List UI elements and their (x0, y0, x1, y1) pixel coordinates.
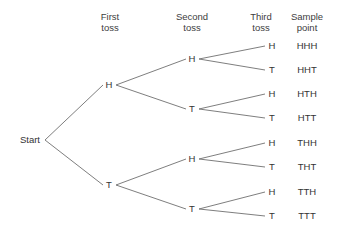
node-third-toss-6: T (269, 161, 275, 172)
branch-group-level2 (199, 46, 265, 216)
node-third-toss-1: H (269, 40, 276, 51)
node-third-toss-8: T (269, 210, 275, 221)
node-second-toss-h-lower: H (189, 153, 196, 164)
node-third-toss-4: T (269, 112, 275, 123)
node-third-toss-2: T (269, 64, 275, 75)
start-node-label: Start (20, 134, 40, 145)
node-third-toss-3: H (269, 88, 276, 99)
sample-point-tth: TTH (298, 186, 317, 197)
node-third-toss-7: H (269, 186, 276, 197)
branch-hh-to-hhh (199, 46, 265, 59)
column-header-third-toss-line1: Third (250, 11, 272, 22)
sample-point-thh: THH (297, 137, 317, 148)
branch-th-to-thh (199, 143, 265, 159)
branch-th-to-tht (199, 159, 265, 167)
branch-hh-to-hht (199, 59, 265, 70)
column-header-sample-point-line2: point (297, 22, 318, 33)
column-header-second-toss-line2: toss (183, 22, 201, 33)
node-first-toss-t: T (106, 179, 112, 190)
sample-point-hth: HTH (297, 88, 317, 99)
column-header-third-toss-line2: toss (252, 22, 270, 33)
node-second-toss-h-upper: H (189, 53, 196, 64)
sample-point-ttt: TTT (298, 210, 316, 221)
node-second-toss-t-lower: T (189, 203, 195, 214)
probability-tree-diagram: First toss Second toss Third toss Sample… (0, 0, 342, 233)
sample-point-hht: HHT (297, 64, 317, 75)
node-third-toss-5: H (269, 137, 276, 148)
column-header-sample-point-line1: Sample (291, 11, 323, 22)
sample-point-hhh: HHH (297, 40, 318, 51)
node-second-toss-t-upper: T (189, 103, 195, 114)
branch-ht-to-htt (199, 109, 265, 118)
branch-start-to-t (45, 140, 103, 185)
branch-t-to-th (116, 159, 186, 185)
branch-tt-to-ttt (199, 209, 265, 216)
branch-h-to-hh (116, 59, 186, 85)
column-header-first-toss-line1: First (101, 11, 120, 22)
branch-h-to-ht (116, 85, 186, 109)
sample-point-tht: THT (298, 161, 317, 172)
column-header-second-toss-line1: Second (176, 11, 208, 22)
node-first-toss-h: H (106, 79, 113, 90)
branch-group-level1 (116, 59, 186, 209)
sample-point-htt: HTT (298, 112, 317, 123)
branch-tt-to-tth (199, 192, 265, 209)
branch-t-to-tt (116, 185, 186, 209)
branch-group-start (45, 85, 103, 185)
branch-ht-to-hth (199, 94, 265, 109)
column-header-first-toss-line2: toss (101, 22, 119, 33)
branch-start-to-h (45, 85, 103, 140)
tree-canvas: First toss Second toss Third toss Sample… (0, 0, 342, 233)
